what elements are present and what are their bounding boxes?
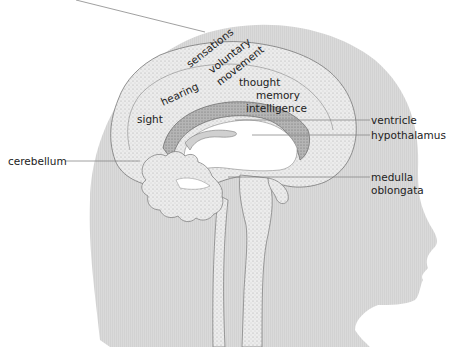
label-ventricle: ventricle [371,114,417,126]
label-oblongata: oblongata [371,184,424,196]
top-leader-line [76,0,205,32]
label-hypothalamus: hypothalamus [371,129,446,141]
label-sight: sight [137,113,163,125]
brain-diagram: sensations voluntary movement hearing th… [0,0,451,347]
label-cerebellum: cerebellum [8,155,67,167]
label-medulla: medulla [371,171,413,183]
label-intelligence: intelligence [246,102,307,114]
label-thought: thought [239,76,280,88]
label-memory: memory [256,89,300,101]
